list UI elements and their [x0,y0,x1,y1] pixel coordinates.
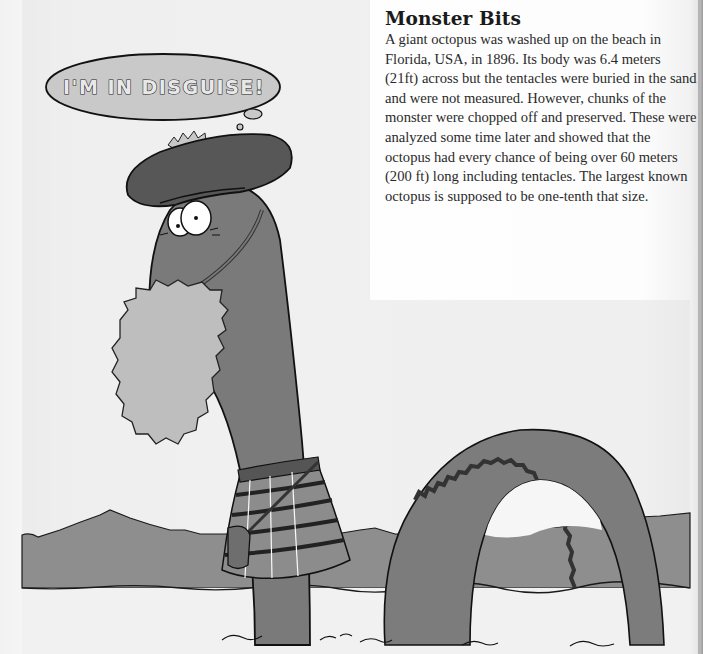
left-pupil [176,224,180,228]
page-gutter-edge [698,0,700,654]
thought-dot-large [244,109,262,119]
sidebar-body: A giant octopus was washed up on the bea… [385,30,697,206]
speech-bubble-text: I'M IN DISGUISE! [63,76,265,98]
water [22,588,690,654]
right-pupil [194,216,198,220]
sidebar-title: Monster Bits [385,8,697,30]
thought-dot-small [237,124,243,130]
sporran-pouch [228,526,250,568]
book-page: I'M IN DISGUISE! Monster Bits A giant oc… [0,0,703,654]
sidebar-box: Monster Bits A giant octopus was washed … [385,8,697,206]
